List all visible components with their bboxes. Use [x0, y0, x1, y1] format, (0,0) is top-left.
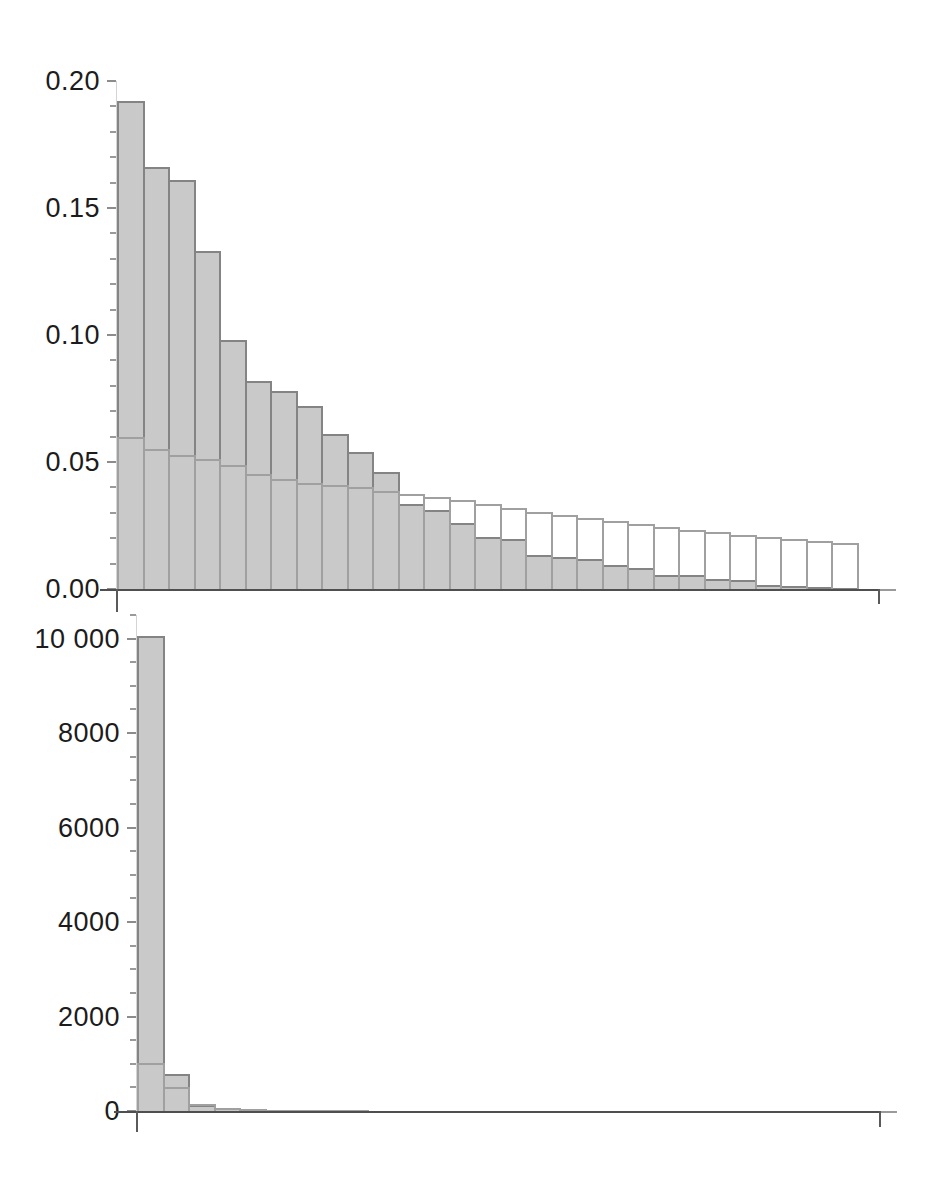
y-axis-minor-tick: [130, 992, 136, 994]
y-axis-minor-tick: [130, 803, 136, 805]
histogram-outline-bar: [525, 512, 553, 589]
y-axis-minor-tick: [130, 1039, 136, 1041]
x-axis-end-tick: [878, 589, 880, 604]
histogram-outline-bar: [372, 491, 400, 589]
histogram-outline-bar: [500, 508, 528, 589]
y-axis-minor-tick: [130, 897, 136, 899]
y-tick-label: 2000: [0, 1003, 120, 1030]
histogram-outline-bar: [245, 474, 273, 589]
histogram-outline-bar: [627, 524, 655, 589]
histogram-outline-bar: [806, 541, 834, 589]
y-axis-minor-tick: [130, 1063, 136, 1065]
y-axis-major-tick: [127, 1016, 136, 1018]
axis-origin-tick: [116, 589, 118, 612]
y-axis-minor-tick: [130, 945, 136, 947]
histogram-outline-bar: [678, 530, 706, 589]
y-tick-label: 0: [0, 1098, 120, 1125]
histogram-outline-bar: [653, 527, 681, 589]
y-axis-minor-tick: [130, 661, 136, 663]
y-axis-minor-tick: [130, 756, 136, 758]
histogram-outline-bar: [729, 535, 757, 589]
x-axis-line: [100, 589, 878, 592]
x-axis-line: [114, 1111, 879, 1114]
histogram-bar: [137, 636, 165, 1111]
x-axis-line-extension: [878, 589, 896, 591]
y-axis-major-tick: [127, 827, 136, 829]
y-axis-major-tick: [127, 638, 136, 640]
histogram-outline-bar: [551, 515, 579, 589]
histogram-outline-bar: [219, 465, 247, 589]
histogram-outline-bar: [168, 455, 196, 589]
y-tick-label: 4000: [0, 909, 120, 936]
x-axis-end-tick: [879, 1111, 881, 1127]
histogram-outline-bar: [143, 449, 171, 589]
y-axis-major-tick: [127, 732, 136, 734]
y-tick-label: 6000: [0, 814, 120, 841]
y-axis-minor-tick: [130, 874, 136, 876]
histogram-outline-bar: [163, 1087, 191, 1111]
y-axis-minor-tick: [130, 614, 136, 616]
y-tick-label: 10 000: [0, 625, 120, 652]
y-tick-label: 8000: [0, 720, 120, 747]
y-axis-minor-tick: [130, 779, 136, 781]
histogram-outline-bar: [780, 539, 808, 589]
histogram-outline-bar: [117, 437, 145, 589]
y-axis-minor-tick: [130, 1086, 136, 1088]
histogram-outline-bar: [270, 479, 298, 589]
y-axis-minor-tick: [130, 968, 136, 970]
y-axis-major-tick: [127, 921, 136, 923]
histogram-outline-bar: [449, 500, 477, 589]
axis-origin-tick: [136, 1111, 138, 1132]
histogram-outline-bar: [704, 532, 732, 589]
histogram-outline-bar: [576, 518, 604, 589]
histogram-outline-bar: [602, 521, 630, 589]
y-axis-minor-tick: [130, 708, 136, 710]
histogram-outline-bar: [423, 497, 451, 589]
histogram-outline-bar: [831, 543, 859, 589]
histogram-outline-bar: [321, 485, 349, 589]
histogram-outline-bar: [755, 537, 783, 589]
histogram-outline-bar: [347, 487, 375, 589]
x-axis-line-extension: [879, 1111, 897, 1113]
y-axis-minor-tick: [130, 850, 136, 852]
histogram-outline-bar: [137, 1063, 165, 1111]
histogram-outline-bar: [474, 504, 502, 589]
histogram-outline-bar: [296, 483, 324, 589]
histogram-outline-bar: [194, 459, 222, 589]
histogram-outline-bar: [398, 494, 426, 589]
book-figure-page: 0.000.050.100.150.20 0200040006000800010…: [0, 0, 938, 1182]
y-axis-minor-tick: [130, 685, 136, 687]
